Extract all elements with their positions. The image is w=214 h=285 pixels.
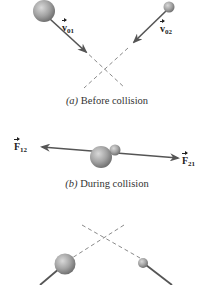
caption-text: Before collision <box>81 95 148 106</box>
ball-1-large <box>90 146 112 168</box>
caption-text: During collision <box>80 178 149 189</box>
subscript: 21 <box>188 160 195 168</box>
ball-1-large <box>33 0 55 22</box>
vector-symbol: v <box>62 22 67 33</box>
vector-symbol: F <box>14 141 20 152</box>
label-f21: F21 <box>182 155 195 168</box>
trajectory-dashed-line-2 <box>84 48 128 88</box>
caption-letter: (b) <box>65 178 77 189</box>
label-f12: F12 <box>14 141 27 154</box>
caption-panel-a: (a) Before collision <box>0 95 214 106</box>
ball-1-large <box>55 254 76 275</box>
trajectory-dashed-line-1 <box>82 225 140 258</box>
subscript: 01 <box>67 27 74 35</box>
collision-figure: v01 v02 (a) Before collision F12 F21 (b)… <box>0 0 214 285</box>
velocity-line-ball-2 <box>146 265 172 285</box>
caption-panel-b: (b) During collision <box>0 178 214 189</box>
panel-a-before-collision <box>33 0 175 88</box>
ball-2-small <box>138 258 148 268</box>
label-v01: v01 <box>62 22 74 35</box>
label-v02: v02 <box>160 23 172 36</box>
panel-c-after-collision <box>40 225 172 285</box>
vector-symbol: v <box>160 23 165 34</box>
collision-diagram-svg <box>0 0 214 285</box>
trajectory-dashed-line-2 <box>72 225 124 258</box>
panel-b-during-collision <box>42 145 178 169</box>
subscript: 12 <box>20 146 27 154</box>
vector-symbol: F <box>182 155 188 166</box>
ball-2-small <box>164 2 175 13</box>
caption-letter: (a) <box>66 95 78 106</box>
subscript: 02 <box>165 28 172 36</box>
